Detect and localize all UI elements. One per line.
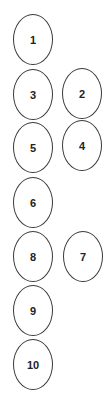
node-label: 7: [80, 251, 86, 263]
node-10: 10: [13, 339, 53, 390]
node-label: 9: [30, 305, 36, 317]
node-label: 10: [27, 359, 39, 371]
node-label: 4: [79, 140, 85, 152]
node-label: 3: [30, 89, 36, 101]
node-label: 5: [30, 142, 36, 154]
node-label: 8: [30, 251, 36, 263]
node-3: 3: [13, 69, 53, 120]
node-6: 6: [13, 177, 53, 228]
node-7: 7: [63, 231, 103, 282]
node-2: 2: [62, 68, 102, 119]
node-5: 5: [13, 122, 53, 173]
node-8: 8: [13, 231, 53, 282]
node-label: 6: [30, 197, 36, 209]
node-label: 1: [30, 34, 36, 46]
node-1: 1: [13, 14, 53, 65]
node-4: 4: [62, 120, 102, 171]
node-9: 9: [13, 285, 53, 336]
node-label: 2: [79, 88, 85, 100]
